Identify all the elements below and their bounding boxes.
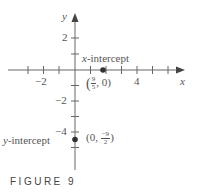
x-axis-arrow-icon (176, 67, 185, 74)
x-tick-label-4: 4 (134, 76, 140, 87)
x-axis-label: x (180, 76, 185, 87)
x-intercept-coordinates: (95, 0) (86, 76, 111, 91)
y-intercept-label: y-intercept (3, 135, 50, 146)
coordinate-plane (0, 0, 200, 192)
x-tick-label-neg2: −2 (35, 76, 47, 87)
x-intercept-point (100, 67, 106, 73)
y-tick-label-neg4: −4 (55, 126, 67, 137)
x-intercept-label: x-intercept (82, 53, 129, 64)
y-intercept-coordinates: (0, −92) (86, 131, 114, 146)
y-intercept-point (72, 137, 78, 143)
y-tick-label-neg2: −2 (55, 95, 67, 106)
y-axis-arrow-icon (72, 13, 79, 22)
y-axis-label: y (62, 11, 67, 22)
y-tick-label-2: 2 (62, 32, 68, 43)
figure-caption: FIGURE 9 (10, 176, 76, 187)
